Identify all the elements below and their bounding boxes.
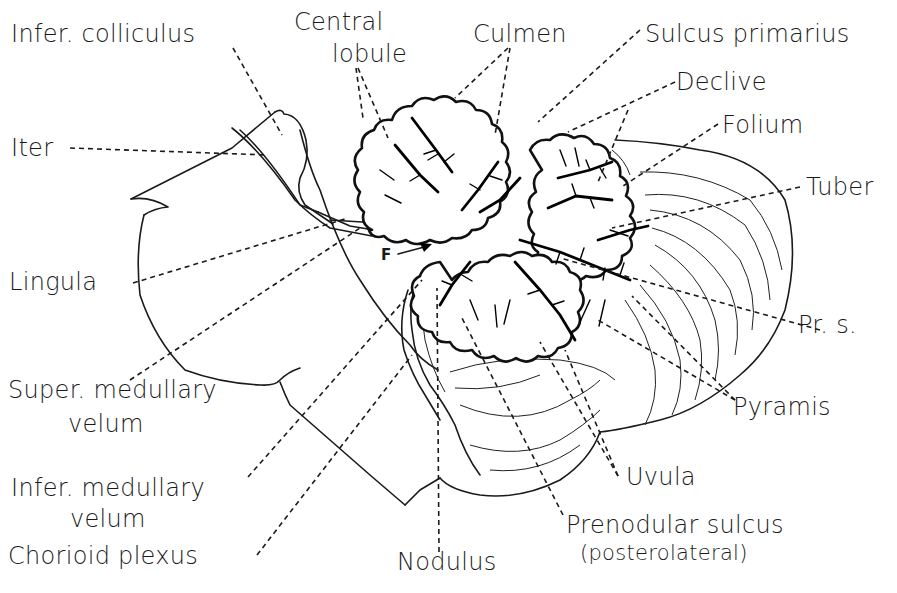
label-super-medullary-velum-line1: Super. medullary: [8, 376, 217, 404]
leader-pyramis-a: [598, 320, 735, 400]
label-declive: Declive: [676, 68, 767, 96]
label-pyramis: Pyramis: [733, 393, 831, 421]
leader-tuber: [612, 187, 800, 228]
label-prenodular-sulcus-line2: (posterolateral): [580, 541, 748, 565]
leader-declive-a: [568, 82, 675, 132]
leader-culmen-b: [495, 48, 510, 135]
label-nodulus: Nodulus: [397, 548, 497, 576]
label-infer-colliculus: Infer. colliculus: [11, 20, 195, 48]
leader-central-lobule-b: [358, 68, 388, 138]
leader-super-medullary-velum: [130, 228, 360, 380]
label-central-lobule-line2: lobule: [332, 40, 407, 68]
label-folium: Folium: [722, 111, 803, 139]
label-culmen: Culmen: [473, 20, 567, 48]
label-f: F: [381, 246, 391, 264]
leader-pr-s: [560, 258, 820, 330]
fastigium-marker: F: [381, 243, 432, 264]
leader-infer-medullary-velum: [248, 280, 422, 477]
label-sulcus-primarius: Sulcus primarius: [645, 20, 850, 48]
label-tuber: Tuber: [806, 173, 874, 201]
cerebellum-diagram: F Infer. colliculus Central lobule Culme…: [0, 0, 897, 593]
label-infer-medullary-velum-line2: velum: [70, 505, 146, 533]
leader-folium: [620, 124, 718, 188]
label-infer-medullary-velum-line1: Infer. medullary: [11, 474, 205, 502]
leader-central-lobule-a: [356, 68, 363, 118]
leader-culmen-a: [455, 48, 508, 98]
label-lingula: Lingula: [9, 268, 97, 296]
label-uvula: Uvula: [626, 463, 696, 491]
leader-lingula: [133, 218, 348, 283]
label-super-medullary-velum-line2: velum: [68, 410, 144, 438]
leader-chorioid-plexus: [257, 355, 412, 555]
vermis-folia: [354, 96, 648, 361]
label-central-lobule-line1: Central: [294, 8, 384, 36]
leader-iter: [70, 148, 268, 155]
leader-infer-colliculus: [233, 48, 282, 135]
label-pr-s: Pr. s.: [798, 311, 857, 339]
label-chorioid-plexus: Chorioid plexus: [8, 542, 198, 570]
label-prenodular-sulcus-line1: Prenodular sulcus: [566, 511, 784, 539]
leader-uvula-b: [565, 350, 618, 476]
label-iter: Iter: [11, 134, 53, 162]
